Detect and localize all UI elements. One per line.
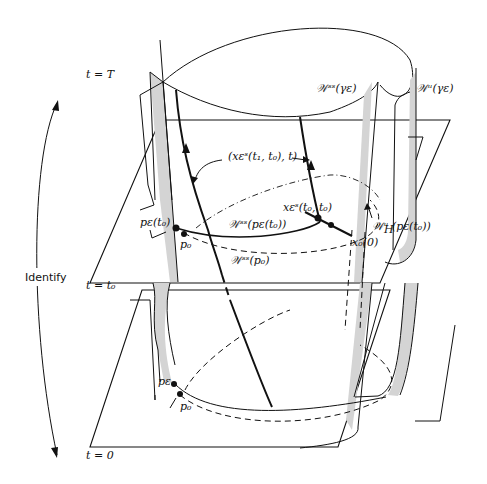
identify-arrow-down <box>51 447 58 458</box>
p0-mid-point <box>181 231 187 237</box>
label-t-T: t = T <box>86 68 116 81</box>
label-w-ss-pe: 𝒲ˢˢ(pε(t₀)) <box>228 218 286 231</box>
label-t-t0: t = t₀ <box>86 279 116 292</box>
label-w-u-pe: 𝒲ᵘ (pε(t₀)) <box>372 220 431 233</box>
label-p0-mid: p₀ <box>180 238 192 251</box>
identify-arrow-up <box>52 100 59 111</box>
x0-point <box>328 222 334 228</box>
label-w-ss-p0: 𝒲ˢˢ(p₀) <box>230 254 269 267</box>
label-x-eps-t0: xεˢ(t₀, t₀) <box>283 201 332 214</box>
label-trajectory: (xεˢ(t₁, t₀), t) <box>228 150 297 163</box>
label-H: H <box>383 223 394 236</box>
identify-label: Identify <box>25 271 67 284</box>
label-w-u-gamma: 𝒲ᵘ(γε) <box>416 82 453 95</box>
label-p0-bottom: p₀ <box>180 400 192 413</box>
x-eps-t0-point <box>315 215 322 222</box>
label-pe-t0: pε(t₀) <box>140 216 170 229</box>
pe-t0-point <box>173 225 180 232</box>
label-x0: x₀(0) <box>352 236 378 249</box>
label-w-ss-gamma: 𝒲ˢˢ(γε) <box>316 82 356 95</box>
plane-t-0 <box>90 290 390 447</box>
label-t-0: t = 0 <box>86 449 114 462</box>
manifold-figure: t = T t = t₀ t = 0 Identify 𝒲ˢˢ(γε) 𝒲ᵘ(γ… <box>0 0 487 484</box>
right-flap-bottom <box>415 325 455 421</box>
w-u-gamma-top-fold <box>395 92 410 105</box>
pe-bottom-point <box>171 381 177 387</box>
p0-bottom-point <box>177 391 183 397</box>
label-pe-bottom: pε <box>158 375 171 388</box>
